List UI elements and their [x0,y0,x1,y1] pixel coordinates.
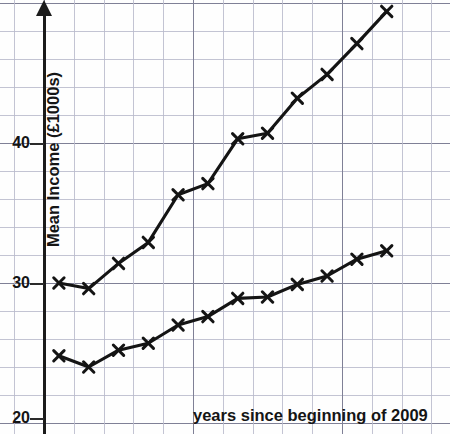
data-point-marker [382,6,392,16]
y-axis-title: Mean Income (£1000s) [44,45,63,275]
series-line-upper-series [59,11,387,288]
data-point-marker [143,237,153,247]
data-point-marker [322,69,332,79]
chart-page: 40 30 20 Mean Income (£1000s) years sinc… [0,0,450,434]
x-axis-title: years since beginning of 2009 [193,406,428,425]
plot-area [0,0,450,434]
series-line-lower-series [59,251,387,367]
y-tick-label-40: 40 [0,134,30,152]
data-point-marker [352,38,362,48]
data-point-marker [292,93,302,103]
y-tick-mark-40 [30,143,44,145]
y-tick-mark-20 [30,418,44,420]
y-axis-arrow-icon [36,0,52,16]
y-tick-label-30: 30 [0,274,30,292]
y-tick-label-20: 20 [0,409,30,427]
y-tick-mark-30 [30,283,44,285]
data-point-marker [113,258,123,268]
